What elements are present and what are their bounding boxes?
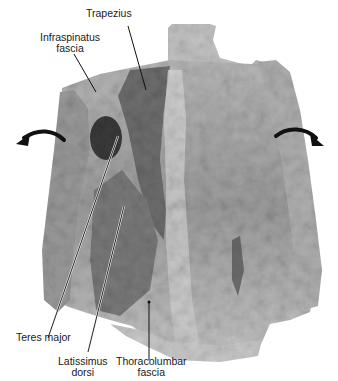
leader-dot [148,301,151,304]
label-trapezius: Trapezius [86,8,132,19]
specimen-image [0,0,338,381]
label-teres-major: Teres major [16,332,71,343]
label-infraspinatus-fascia: Infraspinatus fascia [40,32,100,54]
label-latissimus-dorsi: Latissimus dorsi [58,356,108,378]
anatomy-figure: Trapezius Infraspinatus fascia Teres maj… [0,0,338,381]
label-thoracolumbar-fascia: Thoracolumbar fascia [116,356,187,378]
